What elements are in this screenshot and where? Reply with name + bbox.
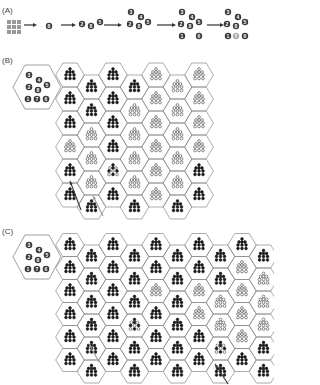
open-dot <box>180 182 183 185</box>
open-dot <box>202 98 205 101</box>
open-dot <box>202 313 205 316</box>
cell-number: 8 <box>37 87 40 93</box>
filled-dot <box>133 367 136 370</box>
filled-dot <box>194 244 197 247</box>
filled-dot <box>94 282 97 285</box>
filled-dot <box>66 71 69 74</box>
filled-dot <box>133 259 136 262</box>
filled-dot <box>116 125 119 128</box>
open-dot <box>266 301 269 304</box>
hex-cell <box>185 183 214 207</box>
filled-dot <box>151 359 154 362</box>
filled-dot <box>155 267 158 270</box>
hex-cell <box>249 291 274 314</box>
open-dot <box>180 86 183 89</box>
filled-dot <box>262 351 265 354</box>
open-dot <box>133 185 136 188</box>
hex-cell <box>163 291 192 314</box>
filled-dot <box>152 356 155 359</box>
filled-dot <box>109 287 112 290</box>
filled-dot <box>73 77 76 80</box>
hex-cell <box>77 314 106 337</box>
filled-dot <box>108 244 111 247</box>
filled-dot <box>176 255 179 258</box>
filled-dot <box>159 316 162 319</box>
filled-dot <box>69 191 72 194</box>
filled-dot <box>219 344 222 347</box>
filled-dot <box>65 290 68 293</box>
filled-dot <box>133 80 136 83</box>
open-dot <box>172 110 175 113</box>
open-dot <box>195 287 198 290</box>
open-dot <box>159 125 162 128</box>
filled-dot <box>198 362 201 365</box>
filled-dot <box>133 374 136 377</box>
open-dot <box>90 128 93 131</box>
filled-dot <box>198 170 201 173</box>
filled-dot <box>129 209 132 212</box>
hex-cell <box>56 303 85 326</box>
open-dot <box>152 143 155 146</box>
open-dot <box>202 149 205 152</box>
open-dot <box>136 321 139 324</box>
hex-cell <box>120 171 149 195</box>
open-dot <box>198 116 201 119</box>
filled-dot <box>130 298 133 301</box>
open-dot <box>180 158 183 161</box>
arrow <box>70 181 81 210</box>
filled-dot <box>241 244 244 247</box>
filled-dot <box>198 330 201 333</box>
filled-dot <box>112 119 115 122</box>
filled-dot <box>69 77 72 80</box>
filled-dot <box>198 336 201 339</box>
filled-dot <box>86 328 89 331</box>
open-dot <box>130 321 133 324</box>
open-dot <box>130 179 133 182</box>
open-dot <box>245 339 248 342</box>
filled-dot <box>133 89 136 92</box>
filled-dot <box>195 167 198 170</box>
cell-number: 2 <box>129 21 132 27</box>
hex-cell <box>185 159 214 183</box>
filled-dot <box>258 255 261 258</box>
filled-dot <box>116 170 119 173</box>
filled-dot <box>112 333 115 336</box>
open-dot <box>94 137 97 140</box>
filled-dot <box>215 282 218 285</box>
filled-dot <box>69 241 72 244</box>
open-dot <box>176 176 179 179</box>
filled-dot <box>116 122 119 125</box>
open-dot <box>155 119 158 122</box>
filled-dot <box>66 287 69 290</box>
filled-dot <box>180 370 183 373</box>
filled-dot <box>176 374 179 377</box>
filled-dot <box>86 259 89 262</box>
filled-dot <box>137 374 140 377</box>
open-dot <box>94 134 97 137</box>
filled-dot <box>155 313 158 316</box>
filled-dot <box>158 356 161 359</box>
filled-dot <box>90 200 93 203</box>
filled-dot <box>173 298 176 301</box>
open-dot <box>202 146 205 149</box>
hex-cell <box>228 257 257 280</box>
filled-dot <box>179 321 182 324</box>
filled-dot <box>112 143 115 146</box>
filled-dot <box>69 316 72 319</box>
filled-dot <box>112 339 115 342</box>
open-dot <box>159 173 162 176</box>
open-dot <box>237 293 240 296</box>
filled-dot <box>173 203 176 206</box>
open-dot <box>198 307 201 310</box>
hex-cell <box>77 99 106 123</box>
filled-dot <box>266 374 269 377</box>
filled-dot <box>73 336 76 339</box>
open-dot <box>202 74 205 77</box>
arrow-head-icon <box>72 23 76 27</box>
open-dot <box>216 344 219 347</box>
open-dot <box>222 344 225 347</box>
hex-cell <box>206 314 235 337</box>
filled-dot <box>90 370 93 373</box>
open-dot <box>198 98 201 101</box>
open-dot <box>87 131 90 134</box>
